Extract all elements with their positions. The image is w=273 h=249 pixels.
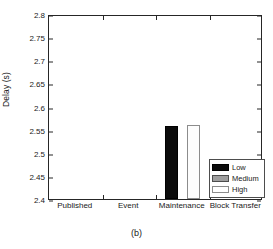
legend-item: High xyxy=(212,184,262,195)
y-axis-tick-label: 2.55 xyxy=(29,128,45,136)
x-axis-tick-mark xyxy=(103,16,104,20)
y-axis-tick-mark xyxy=(257,154,261,155)
bar-high xyxy=(187,125,200,199)
legend-item-label: Low xyxy=(232,164,246,172)
y-axis-tick-label: 2.4 xyxy=(34,197,45,205)
y-axis-tick-mark xyxy=(49,131,53,132)
y-axis-tick-mark xyxy=(49,39,53,40)
x-axis-tick-mark xyxy=(156,16,157,20)
y-axis-tick-label: 2.5 xyxy=(34,151,45,159)
y-axis-tick-mark xyxy=(257,16,261,17)
y-axis-tick-mark xyxy=(49,201,53,202)
y-axis-tick-mark xyxy=(49,85,53,86)
x-axis-tick-label: Block Transfer xyxy=(210,202,261,210)
y-axis-tick-mark xyxy=(49,16,53,17)
y-axis-tick-mark xyxy=(49,177,53,178)
y-axis-tick-mark xyxy=(257,62,261,63)
x-axis-tick-mark xyxy=(103,195,104,199)
legend-item: Low xyxy=(212,162,262,173)
y-axis-label: Delay (s) xyxy=(1,72,11,107)
y-axis-tick-label: 2.6 xyxy=(34,105,45,113)
legend-item-label: Medium xyxy=(232,175,259,183)
y-axis-tick-label: 2.65 xyxy=(29,81,45,89)
legend-swatch-icon xyxy=(212,175,229,182)
legend-item-label: High xyxy=(232,186,247,194)
y-axis-tick-mark xyxy=(49,108,53,109)
y-axis-tick-mark xyxy=(49,62,53,63)
x-axis-tick-label: Published xyxy=(57,202,92,210)
figure-caption: (b) xyxy=(0,228,273,238)
x-axis-tick-mark xyxy=(210,16,211,20)
y-axis-tick-label: 2.7 xyxy=(34,58,45,66)
bar-low xyxy=(165,126,178,199)
y-axis-tick-label: 2.75 xyxy=(29,35,45,43)
y-axis-tick-mark xyxy=(257,39,261,40)
legend-swatch-icon xyxy=(212,186,229,193)
y-axis-tick-mark xyxy=(257,131,261,132)
x-axis-tick-label: Maintenance xyxy=(159,202,205,210)
legend-item: Medium xyxy=(212,173,262,184)
y-axis-tick-mark xyxy=(257,108,261,109)
x-axis-tick-mark xyxy=(156,195,157,199)
y-axis-tick-label: 2.45 xyxy=(29,174,45,182)
legend-swatch-icon xyxy=(212,164,229,171)
y-axis-tick-mark xyxy=(257,85,261,86)
y-axis-tick-label: 2.8 xyxy=(34,12,45,20)
x-axis-tick-label: Event xyxy=(118,202,138,210)
figure-panel: Delay (s) 2.42.452.52.552.62.652.72.752.… xyxy=(0,0,273,249)
y-axis-tick-mark xyxy=(49,154,53,155)
chart-legend: LowMediumHigh xyxy=(209,159,265,198)
